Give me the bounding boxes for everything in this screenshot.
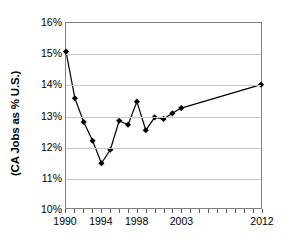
data-point-marker (81, 119, 87, 125)
x-tick (244, 209, 245, 213)
x-tick-label: 1990 (53, 215, 76, 227)
data-point-marker (125, 122, 131, 128)
data-point-marker (98, 160, 104, 166)
x-tick (101, 209, 102, 213)
x-tick-label: 1998 (125, 215, 148, 227)
y-axis-tick-labels: 16%15%14%13%12%11%10% (24, 22, 62, 209)
x-tick (92, 209, 93, 213)
data-line (66, 52, 261, 164)
x-tick (155, 209, 156, 213)
y-axis-title: (CA Jobs as % U.S.) (4, 0, 26, 247)
x-axis-ticks (65, 209, 262, 214)
x-tick (172, 209, 173, 213)
x-tick (181, 209, 182, 213)
x-tick (164, 209, 165, 213)
chart-container: (CA Jobs as % U.S.) 16%15%14%13%12%11%10… (0, 0, 288, 247)
x-axis-tick-labels: 19901994199820032012 (65, 215, 262, 233)
data-point-marker (178, 105, 184, 111)
line-series-svg (66, 23, 261, 208)
y-tick-label: 10% (28, 203, 62, 215)
y-tick-label: 14% (28, 78, 62, 90)
x-tick (128, 209, 129, 213)
data-point-marker (90, 138, 96, 144)
y-tick-label: 13% (28, 110, 62, 122)
x-tick (146, 209, 147, 213)
x-tick (253, 209, 254, 213)
plot-area (65, 22, 262, 209)
x-tick (74, 209, 75, 213)
gridline-15 (66, 54, 261, 55)
x-tick (119, 209, 120, 213)
x-tick (199, 209, 200, 213)
x-tick (190, 209, 191, 213)
gridline-11 (66, 179, 261, 180)
y-tick-label: 15% (28, 47, 62, 59)
x-tick (137, 209, 138, 213)
x-tick (235, 209, 236, 213)
x-tick-label: 2003 (170, 215, 193, 227)
gridline-14 (66, 85, 261, 86)
y-tick-label: 12% (28, 141, 62, 153)
x-tick (83, 209, 84, 213)
data-point-marker (116, 118, 122, 124)
gridline-12 (66, 148, 261, 149)
gridline-13 (66, 117, 261, 118)
data-point-marker (72, 95, 78, 101)
x-tick (110, 209, 111, 213)
y-tick-label: 16% (28, 16, 62, 28)
data-point-marker (134, 99, 140, 105)
x-tick (208, 209, 209, 213)
x-tick-label: 2012 (250, 215, 273, 227)
x-tick (226, 209, 227, 213)
y-tick-label: 11% (28, 172, 62, 184)
x-tick (65, 209, 66, 213)
data-point-marker (169, 110, 175, 116)
x-tick (217, 209, 218, 213)
x-tick-label: 1994 (89, 215, 112, 227)
x-tick (262, 209, 263, 213)
